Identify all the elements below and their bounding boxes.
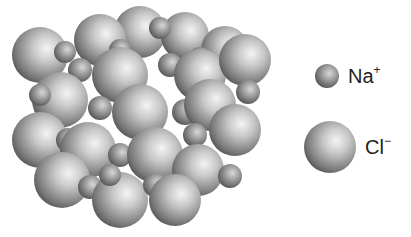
- legend-item-chloride: Cl−: [303, 120, 391, 174]
- chloride-ion-sphere: [92, 172, 148, 228]
- sodium-ion-label: Na+: [348, 65, 381, 88]
- sodium-ion-sphere: [236, 80, 260, 104]
- sodium-ion-sphere: [99, 164, 121, 186]
- nacl-crystal-lattice: [0, 0, 300, 237]
- sodium-ion-sphere: [183, 123, 207, 147]
- chloride-ion-label: Cl−: [365, 136, 391, 159]
- chloride-ion-sphere: [149, 174, 201, 226]
- sodium-ion-sphere: [54, 41, 76, 63]
- chloride-ion-sphere: [209, 104, 261, 156]
- legend-item-sodium: Na+: [314, 63, 381, 89]
- chloride-ion-sphere: [219, 34, 271, 86]
- sodium-ion-sphere: [149, 17, 171, 39]
- sodium-ion-sphere: [218, 164, 242, 188]
- sodium-ion-sphere: [88, 96, 112, 120]
- sodium-ion-sphere-icon: [314, 63, 340, 89]
- sodium-ion-sphere: [29, 84, 51, 106]
- chloride-ion-sphere-icon: [303, 120, 357, 174]
